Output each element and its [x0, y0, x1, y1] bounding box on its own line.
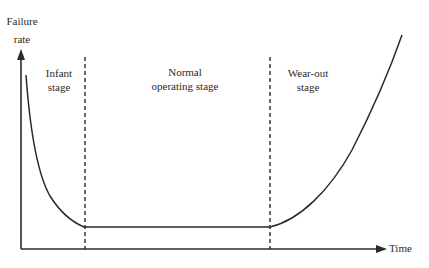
y-axis-label-line1: Failure	[2, 14, 42, 28]
infant-stage-label: Infant stage	[40, 66, 78, 94]
wearout-stage-line1: Wear-out	[280, 66, 336, 80]
normal-stage-line2: operating stage	[130, 79, 240, 93]
infant-stage-line1: Infant	[40, 66, 78, 80]
x-axis-label: Time	[389, 241, 419, 255]
normal-stage-label: Normal operating stage	[130, 65, 240, 93]
y-axis-arrow-icon	[17, 49, 25, 60]
infant-stage-line2: stage	[40, 80, 78, 94]
wearout-stage-label: Wear-out stage	[280, 66, 336, 94]
failure-rate-curve	[26, 35, 402, 227]
normal-stage-line1: Normal	[130, 65, 240, 79]
wearout-stage-line2: stage	[280, 80, 336, 94]
x-axis-arrow-icon	[376, 245, 387, 253]
y-axis-label: Failure rate	[2, 14, 42, 46]
y-axis-label-line2: rate	[2, 32, 42, 46]
bathtub-curve-diagram	[0, 0, 429, 268]
